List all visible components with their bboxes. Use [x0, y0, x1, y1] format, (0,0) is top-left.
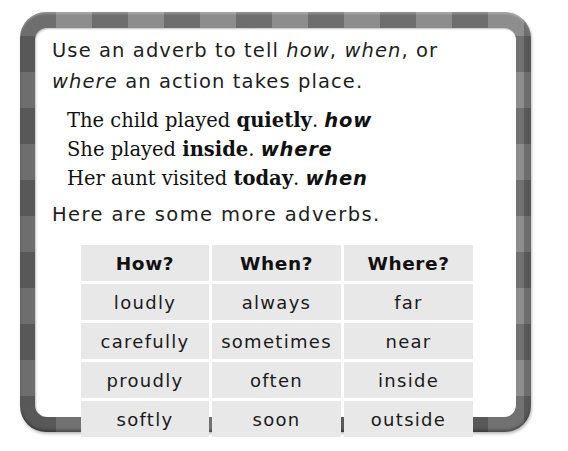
example-sentence: She played inside. where — [67, 135, 372, 164]
table-cell: near — [344, 323, 473, 359]
table-cell: outside — [344, 401, 473, 437]
sentence-adverb: today — [233, 167, 293, 190]
example-sentence: The child played quietly. how — [67, 106, 372, 135]
sentence-adverb: inside — [182, 138, 248, 161]
adverb-type-tag: when — [305, 167, 367, 190]
table-lead-text: Here are some more adverbs. — [52, 203, 381, 226]
intro-part1: Use an adverb to tell — [52, 39, 286, 62]
table-cell: soon — [212, 401, 341, 437]
intro-where: where — [52, 70, 118, 93]
sentence-text: Her aunt visited — [67, 167, 233, 190]
sentence-text: The child played — [67, 109, 237, 132]
sentence-text: She played — [67, 138, 182, 161]
table-cell: sometimes — [212, 323, 341, 359]
intro-how: how — [286, 39, 330, 62]
sentence-punct: . — [248, 138, 260, 161]
example-sentences: The child played quietly. how She played… — [67, 106, 372, 193]
intro-part2: , or — [401, 39, 438, 62]
table-cell: often — [212, 362, 341, 398]
table-cell: softly — [81, 401, 209, 437]
adverb-type-tag: where — [261, 138, 333, 161]
intro-part3: an action takes place. — [118, 70, 363, 93]
lesson-card: Use an adverb to tell how, when, or wher… — [0, 0, 568, 451]
table-cell: carefully — [81, 323, 209, 359]
sentence-punct: . — [312, 109, 324, 132]
header-when: When? — [212, 245, 341, 281]
intro-when: when — [344, 39, 401, 62]
table-cell: always — [212, 284, 341, 320]
table-cell: far — [344, 284, 473, 320]
example-sentence: Her aunt visited today. when — [67, 164, 372, 193]
intro-text: Use an adverb to tell how, when, or wher… — [52, 35, 492, 97]
adverb-type-tag: how — [324, 109, 372, 132]
adverb-table: How? When? Where? loudly always far care… — [81, 245, 473, 437]
table-cell: proudly — [81, 362, 209, 398]
table-cell: loudly — [81, 284, 209, 320]
sentence-adverb: quietly — [237, 109, 312, 132]
sentence-punct: . — [293, 167, 305, 190]
intro-comma: , — [330, 39, 345, 62]
header-how: How? — [81, 245, 209, 281]
header-where: Where? — [344, 245, 473, 281]
table-cell: inside — [344, 362, 473, 398]
